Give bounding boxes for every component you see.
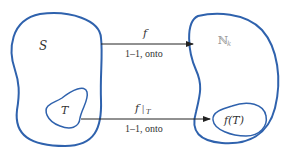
set-mapping-diagram: S T f 1–1, onto f | T 1–1, onto ℕ k f(T) [0,0,285,152]
bottom-arrow-label: f | T [134,102,152,116]
label-nk: ℕ k [218,34,231,48]
bottom-arrow-label-f: f [134,102,141,115]
label-t: T [61,104,70,117]
label-nk-subscript: k [227,40,231,48]
bottom-arrow-subscript: T [146,108,152,116]
top-arrow-label: f [142,27,149,40]
set-s-outline [12,13,102,146]
label-s: S [39,39,47,53]
bottom-arrow-caption: 1–1, onto [125,123,163,134]
bottom-arrow-restriction-bar: | [142,102,144,114]
top-arrow-caption: 1–1, onto [125,48,163,59]
label-ft: f(T) [223,114,244,127]
